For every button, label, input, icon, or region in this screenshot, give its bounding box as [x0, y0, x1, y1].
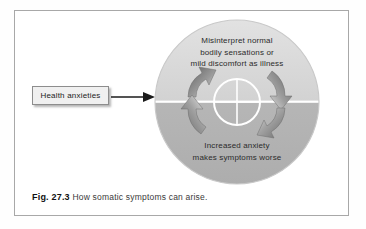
figure-caption: Fig. 27.3 How somatic symptoms can arise…	[32, 192, 208, 202]
right-arrow-icon	[110, 88, 156, 106]
figure-container: Health anxieties	[0, 0, 366, 229]
crosshair-circle-icon	[214, 79, 260, 125]
caption-text: How somatic symptoms can arise.	[72, 192, 207, 202]
vicious-cycle-diagram	[154, 19, 320, 185]
health-anxieties-box: Health anxieties	[32, 86, 109, 105]
health-anxieties-label: Health anxieties	[40, 91, 100, 100]
caption-number: Fig. 27.3	[32, 192, 70, 202]
